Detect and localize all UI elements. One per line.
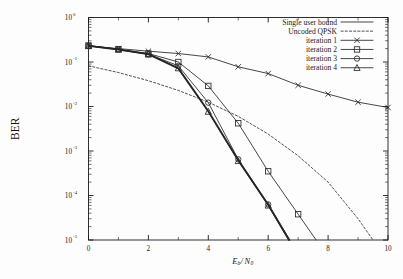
svg-text:-5: -5	[73, 234, 78, 239]
svg-text:10: 10	[65, 148, 73, 156]
svg-text:10: 10	[65, 103, 73, 111]
svg-text:10: 10	[65, 59, 73, 67]
legend-entry-6: iteration 4	[306, 63, 373, 72]
svg-text:N: N	[244, 257, 251, 266]
y-tick-label: 10-1	[65, 56, 78, 66]
svg-text:0: 0	[251, 260, 254, 266]
svg-text:-1: -1	[73, 56, 78, 61]
svg-text:-3: -3	[73, 145, 78, 150]
chart-figure: 024681010010-110-210-310-410-5 Single us…	[0, 0, 403, 279]
x-tick-label: 8	[326, 245, 330, 253]
legend-entry-3: iteration 1	[306, 36, 373, 45]
series-4	[86, 43, 316, 240]
y-tick-label: 10-4	[65, 190, 78, 200]
legend-entry-5: iteration 3	[306, 54, 373, 63]
series-5	[86, 43, 290, 240]
legend-label: Single user bound	[282, 18, 337, 27]
legend-label: Uncoded QPSK	[288, 27, 337, 36]
legend-entry-1: Single user bound	[282, 18, 373, 27]
x-tick-label: 0	[87, 245, 91, 253]
x-tick-label: 4	[207, 245, 211, 253]
svg-text:10: 10	[65, 192, 73, 200]
plot-series	[85, 43, 390, 240]
y-tick-label: 10-2	[65, 101, 78, 111]
marker-x	[295, 83, 300, 88]
svg-text:0: 0	[73, 12, 76, 17]
x-tick-label: 6	[266, 245, 270, 253]
series-6	[85, 43, 288, 240]
svg-text:E: E	[231, 257, 237, 266]
y-tick-label: 100	[65, 12, 76, 22]
legend-label: iteration 3	[306, 54, 337, 63]
x-tick-label: 2	[147, 245, 151, 253]
y-tick-label: 10-5	[65, 234, 78, 244]
legend-label: iteration 2	[306, 45, 337, 54]
y-axis-title: BER	[9, 117, 21, 140]
legend-label: iteration 1	[306, 36, 337, 45]
legend-entry-4: iteration 2	[306, 45, 373, 54]
marker-x	[325, 91, 330, 96]
legend-entry-2: Uncoded QPSK	[288, 27, 373, 36]
legend-label: iteration 4	[306, 63, 337, 72]
plot-labels: BEREb/N0	[9, 117, 254, 266]
svg-text:/: /	[240, 257, 244, 266]
x-tick-label: 10	[384, 245, 392, 253]
x-axis-title: Eb/N0	[231, 257, 253, 267]
series-1	[89, 46, 290, 240]
svg-text:10: 10	[65, 237, 73, 245]
plot-legend: Single user boundUncoded QPSKiteration 1…	[282, 18, 373, 73]
svg-text:-2: -2	[73, 101, 78, 106]
svg-text:10: 10	[65, 14, 73, 22]
series-3	[86, 43, 391, 110]
ber-vs-ebn0-plot: 024681010010-110-210-310-410-5 Single us…	[0, 0, 403, 279]
svg-text:-4: -4	[73, 190, 78, 195]
y-tick-label: 10-3	[65, 145, 78, 155]
